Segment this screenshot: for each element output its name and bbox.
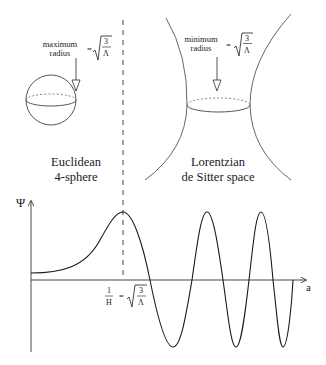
max-radius-numerator: 3 [104,37,108,46]
marker-sqrt-numerator: 3 [139,286,143,295]
max-radius-equals: = [87,44,92,54]
marker-sqrt-denominator: Λ [138,298,144,307]
marker-equals: = [119,291,124,301]
figure-canvas: maximum radius = 3 Λ minimum radius = 3 … [0,0,326,365]
marker-denominator: H [106,298,112,307]
min-radius-equals: = [226,40,231,50]
min-radius-denominator: Λ [244,46,250,55]
euclidean-label-1: Euclidean [51,155,102,169]
lorentzian-label-1: Lorentzian [191,155,246,169]
euclidean-label-2: 4-sphere [54,170,97,184]
x-axis-label: a [306,281,311,293]
marker-numerator: 1 [107,286,111,295]
min-radius-label-2: radius [191,43,212,53]
y-axis-label: Ψ [16,196,26,210]
max-radius-label-2: radius [50,48,71,58]
min-radius-arrow-icon [213,57,221,91]
min-radius-numerator: 3 [245,34,249,43]
max-radius-denominator: Λ [103,49,109,58]
wavefunction-curve [31,212,293,347]
lorentzian-label-2: de Sitter space [182,170,255,184]
max-radius-arrow-icon [72,58,80,91]
euclidean-sphere [26,75,76,125]
